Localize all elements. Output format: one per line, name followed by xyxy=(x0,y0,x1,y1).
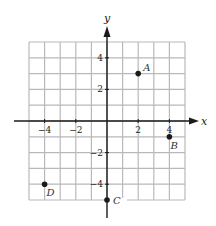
y-tick-label: 2 xyxy=(97,84,103,94)
point-a xyxy=(135,71,141,77)
point-label-c: C xyxy=(113,195,121,206)
axes: x y xyxy=(14,12,208,218)
y-tick-label: 4 xyxy=(97,53,103,63)
point-c xyxy=(104,197,110,203)
x-tick-label: −4 xyxy=(38,125,52,135)
point-b xyxy=(167,134,173,140)
y-tick-label: −2 xyxy=(90,148,103,158)
y-tick-label: −4 xyxy=(90,179,104,189)
x-tick-label: −2 xyxy=(69,125,82,135)
point-label-a: A xyxy=(142,62,150,73)
y-axis-arrow-icon xyxy=(104,26,111,37)
x-tick-label: 4 xyxy=(167,125,173,135)
point-d xyxy=(42,181,48,187)
point-label-b: B xyxy=(169,140,177,151)
x-axis-label: x xyxy=(201,115,208,128)
coordinate-plane: x y −4−22442−2−4 ABCD xyxy=(0,0,216,226)
point-label-d: D xyxy=(46,187,55,198)
x-tick-label: 2 xyxy=(135,125,141,135)
y-axis-label: y xyxy=(103,12,111,25)
x-axis-arrow-icon xyxy=(189,118,199,125)
